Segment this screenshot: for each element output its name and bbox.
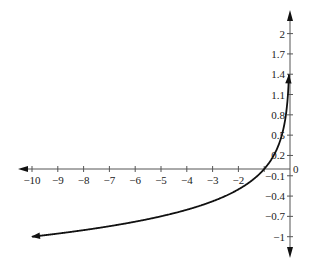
y-tick-label: −0.1 bbox=[265, 170, 285, 182]
y-tick-label: 2 bbox=[280, 28, 286, 40]
x-tick-label: −5 bbox=[155, 174, 167, 186]
y-axis-up-arrow-icon bbox=[287, 10, 293, 21]
y-tick-label: −0.4 bbox=[265, 190, 285, 202]
tick-labels: −10−9−8−7−6−5−4−3−221.71.41.10.80.50.2−0… bbox=[23, 28, 299, 243]
x-tick-label: −10 bbox=[23, 174, 41, 186]
x-tick-label: −3 bbox=[207, 174, 219, 186]
tick-marks bbox=[32, 34, 293, 237]
x-tick-label: −4 bbox=[181, 174, 193, 186]
x-tick-label: −7 bbox=[104, 174, 116, 186]
function-graph: −10−9−8−7−6−5−4−3−221.71.41.10.80.50.2−0… bbox=[0, 0, 314, 264]
curve-top-arrow-icon bbox=[285, 74, 291, 83]
x-tick-label: −6 bbox=[129, 174, 141, 186]
origin-label: 0 bbox=[293, 163, 299, 175]
data-series bbox=[31, 74, 292, 239]
x-tick-label: −8 bbox=[78, 174, 90, 186]
plot-area: −10−9−8−7−6−5−4−3−221.71.41.10.80.50.2−0… bbox=[0, 0, 314, 264]
y-tick-label: 1.7 bbox=[271, 48, 285, 60]
x-tick-label: −9 bbox=[52, 174, 64, 186]
y-axis-down-arrow-icon bbox=[287, 247, 293, 258]
y-tick-label: −1 bbox=[273, 231, 285, 243]
y-tick-label: 1.4 bbox=[271, 68, 285, 80]
x-axis-arrow-icon bbox=[18, 166, 28, 172]
axes bbox=[18, 10, 293, 258]
y-tick-label: −0.7 bbox=[265, 210, 285, 222]
y-tick-label: 1.1 bbox=[271, 89, 285, 101]
x-tick-label: −2 bbox=[233, 174, 245, 186]
curve-line bbox=[32, 74, 289, 236]
y-tick-label: 0.8 bbox=[271, 109, 285, 121]
